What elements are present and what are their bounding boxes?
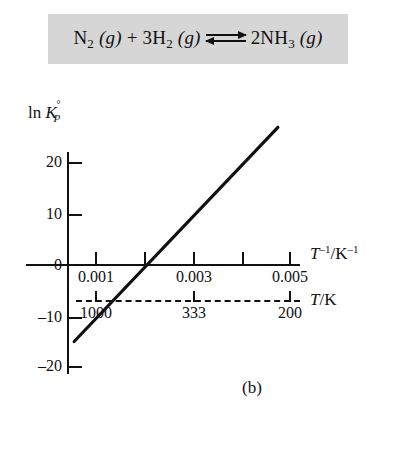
figure-container: N2 (g) + 3H2 (g)2NH3 (g) ln KP° 20 10 0 … xyxy=(0,0,394,467)
temperature-axis-tick-333 xyxy=(193,291,195,302)
y-axis-tick-minus-20 xyxy=(69,366,82,368)
y-axis-tick-label-20: 20 xyxy=(18,153,62,171)
x-axis-label: T–1/K–1 xyxy=(310,243,358,264)
figure-caption: (b) xyxy=(222,378,282,398)
vant-hoff-plot: ln KP° 20 10 0 –10 –20 0.001 0.003 0.005… xyxy=(0,0,394,467)
y-axis-tick-label-10: 10 xyxy=(18,205,62,223)
x-axis-tick-0.005 xyxy=(289,252,291,265)
y-axis-tick-label-minus-10: –10 xyxy=(18,308,62,326)
temperature-axis-tick-label-1000: 1000 xyxy=(61,304,131,322)
temperature-axis-tick-label-333: 333 xyxy=(159,304,229,322)
x-axis-tick-label-0.003: 0.003 xyxy=(159,268,229,286)
y-axis-line xyxy=(67,152,69,374)
x-axis-tick-0.003 xyxy=(193,252,195,265)
y-axis-tick-label-0: 0 xyxy=(18,256,62,274)
x-axis-tick-0.001 xyxy=(95,252,97,265)
temperature-axis-tick-1000 xyxy=(95,291,97,302)
y-axis-label-subscript: P xyxy=(53,112,60,124)
x-axis-tick-0.004 xyxy=(242,252,244,265)
y-axis-tick-20 xyxy=(69,162,82,164)
x-axis-tick-label-0.001: 0.001 xyxy=(61,268,131,286)
x-axis-label-exponent: –1 xyxy=(319,243,330,255)
data-series-layer xyxy=(0,0,394,467)
temperature-axis-tick-200 xyxy=(289,291,291,302)
temperature-axis-label: T/K xyxy=(310,290,336,310)
x-axis-label-divider: /K xyxy=(330,244,347,263)
temperature-axis-label-divider: /K xyxy=(319,290,336,309)
y-axis-tick-label-minus-20: –20 xyxy=(18,357,62,375)
x-axis-label-unit-exponent: –1 xyxy=(347,243,358,255)
temperature-axis-dashed-line xyxy=(76,300,300,302)
y-axis-label: ln KP° xyxy=(28,103,57,123)
y-axis-label-superscript: ° xyxy=(56,99,60,110)
x-axis-tick-label-0.005: 0.005 xyxy=(255,268,325,286)
y-axis-tick-10 xyxy=(69,214,82,216)
y-axis-label-symbol: KP° xyxy=(45,103,56,123)
x-axis-tick-0.002 xyxy=(144,252,146,265)
y-axis-label-prefix: ln xyxy=(28,103,45,122)
x-axis-line xyxy=(26,264,300,266)
